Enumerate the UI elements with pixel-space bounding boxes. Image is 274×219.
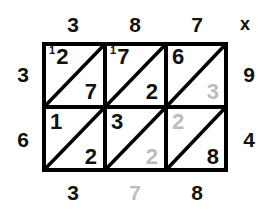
cell-lower-r1c1: 2: [146, 146, 158, 168]
lattice-cell-r0c0: 12 7: [43, 42, 105, 107]
lattice-grid: 12 7 17 2 6 3 1 2 3 2 2 8: [42, 42, 228, 172]
cell-upper-r1c0: 1: [49, 111, 62, 133]
lattice-cell-r1c2: 2 8: [165, 107, 227, 172]
bottom-label-1: 7: [104, 176, 166, 208]
left-label-1: 6: [8, 107, 38, 172]
lattice-cell-r0c2: 6 3: [165, 42, 227, 107]
cell-upper-r1c2: 2: [171, 111, 184, 133]
left-label-0: 3: [8, 42, 38, 107]
bottom-label-0: 3: [42, 176, 104, 208]
cell-upper-digit-r1c0: 1: [50, 109, 62, 134]
cell-lower-r1c2: 8: [207, 146, 219, 168]
lattice-cell-r1c0: 1 2: [43, 107, 105, 172]
top-labels-row: 3 8 7: [42, 8, 228, 40]
cell-lower-r0c1: 2: [146, 81, 158, 103]
right-label-1: 4: [234, 107, 264, 172]
cell-carry-r0c1: 1: [110, 44, 116, 56]
cell-upper-digit-r0c0: 2: [56, 44, 68, 69]
bottom-label-2: 8: [166, 176, 228, 208]
top-label-1: 8: [104, 8, 166, 40]
lattice-cell-r0c1: 17 2: [104, 42, 166, 107]
lattice-multiplication-diagram: 3 8 7 x 3 6 9 4 3 7 8: [0, 0, 274, 219]
cell-upper-digit-r0c2: 6: [172, 44, 184, 69]
cell-lower-r1c0: 2: [85, 146, 97, 168]
cell-upper-digit-r1c2: 2: [172, 109, 184, 134]
lattice-cell-r1c1: 3 2: [104, 107, 166, 172]
cell-upper-digit-r0c1: 7: [117, 44, 129, 69]
right-labels-column: 9 4: [234, 42, 264, 172]
left-labels-column: 3 6: [8, 42, 38, 172]
multiplication-operator-symbol: x: [232, 8, 258, 40]
right-label-0: 9: [234, 42, 264, 107]
cell-upper-r0c0: 12: [49, 46, 68, 68]
cell-lower-r0c2: 3: [207, 81, 219, 103]
cell-carry-r0c0: 1: [49, 44, 55, 56]
cell-upper-r0c1: 17: [110, 46, 129, 68]
top-label-0: 3: [42, 8, 104, 40]
cell-upper-digit-r1c1: 3: [111, 109, 123, 134]
cell-lower-r0c0: 7: [85, 81, 97, 103]
grid-cells: 12 7 17 2 6 3 1 2 3 2 2 8: [42, 42, 228, 172]
top-label-2: 7: [166, 8, 228, 40]
bottom-labels-row: 3 7 8: [42, 176, 228, 208]
cell-upper-r1c1: 3: [110, 111, 123, 133]
cell-upper-r0c2: 6: [171, 46, 184, 68]
